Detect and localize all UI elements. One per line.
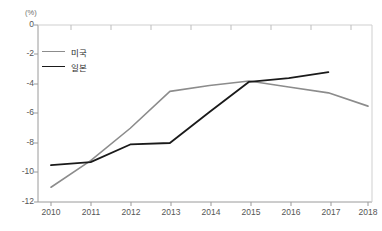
axis-lines: [38, 25, 372, 202]
legend-swatch-jp: [42, 66, 65, 67]
x-axis-ticks-top: [71, 25, 351, 30]
legend-label-us: 미국: [71, 46, 87, 58]
chart-legend: 미국 일본: [42, 44, 87, 74]
x-axis-ticks-bottom: [51, 202, 368, 206]
legend-swatch-us: [42, 51, 65, 52]
legend-item-us: 미국: [42, 44, 87, 59]
legend-item-jp: 일본: [42, 59, 87, 74]
series-line-us: [51, 81, 368, 187]
y-axis-ticks: [34, 25, 38, 202]
legend-label-jp: 일본: [71, 61, 87, 73]
